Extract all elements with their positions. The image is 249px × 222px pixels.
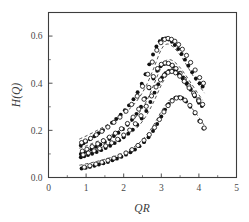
open-circle-marker: [159, 41, 163, 45]
open-circle-marker: [162, 73, 166, 77]
open-circle-marker: [154, 85, 158, 89]
x-tick-label: 5: [234, 183, 239, 193]
open-circle-marker: [94, 162, 98, 166]
open-circle-marker: [177, 42, 181, 46]
filled-circle-marker: [136, 90, 140, 94]
open-circle-marker: [112, 120, 116, 124]
open-circle-marker: [202, 126, 206, 130]
open-circle-marker: [158, 78, 162, 82]
open-circle-marker: [136, 143, 140, 147]
open-circle-marker: [139, 114, 143, 118]
open-circle-marker: [119, 127, 123, 131]
filled-circle-marker: [144, 109, 148, 113]
open-circle-marker: [107, 135, 111, 139]
open-circle-marker: [130, 148, 134, 152]
open-circle-marker: [149, 94, 153, 98]
open-circle-marker: [133, 122, 137, 126]
open-circle-marker: [110, 141, 114, 145]
open-circle-marker: [144, 104, 148, 108]
open-circle-marker: [147, 133, 151, 137]
open-circle-marker: [88, 164, 92, 168]
open-circle-marker: [201, 102, 205, 106]
open-circle-marker: [188, 103, 192, 107]
open-circle-marker: [106, 125, 110, 129]
open-circle-marker: [131, 115, 135, 119]
open-circle-marker: [92, 149, 96, 153]
open-circle-marker: [157, 117, 161, 121]
open-circle-marker: [178, 96, 182, 100]
scatter-chart-figure: 012345 0.00.20.40.6 QR H(Q): [0, 0, 249, 222]
open-circle-marker: [118, 115, 122, 119]
open-circle-marker: [166, 104, 170, 108]
open-circle-marker: [147, 85, 151, 89]
open-circle-marker: [124, 151, 128, 155]
filled-circle-marker: [183, 58, 187, 62]
open-circle-marker: [182, 79, 186, 83]
open-circle-marker: [140, 84, 144, 88]
open-circle-marker: [152, 125, 156, 129]
open-circle-marker: [193, 111, 197, 115]
open-circle-marker: [112, 156, 116, 160]
open-circle-marker: [150, 60, 154, 64]
open-circle-marker: [187, 86, 191, 90]
open-circle-marker: [83, 139, 87, 143]
filled-circle-marker: [180, 52, 184, 56]
open-circle-marker: [180, 47, 184, 51]
open-circle-marker: [201, 81, 205, 85]
open-circle-marker: [155, 67, 159, 71]
open-circle-marker: [189, 60, 193, 64]
x-tick-label: 4: [197, 183, 202, 193]
open-circle-marker: [106, 158, 110, 162]
x-axis-label: QR: [134, 202, 149, 214]
open-circle-marker: [86, 151, 90, 155]
open-circle-marker: [118, 154, 122, 158]
open-circle-marker: [122, 133, 126, 137]
open-circle-marker: [142, 138, 146, 142]
open-circle-marker: [124, 109, 128, 113]
open-circle-marker: [94, 133, 98, 137]
open-circle-marker: [178, 74, 182, 78]
y-tick-label: 0.6: [31, 31, 43, 41]
open-circle-marker: [183, 98, 187, 102]
filled-circle-marker: [153, 91, 157, 95]
x-tick-label: 0: [46, 183, 51, 193]
open-circle-marker: [116, 137, 120, 141]
open-circle-marker: [170, 63, 174, 67]
y-tick-label: 0.0: [31, 173, 43, 183]
open-circle-marker: [104, 144, 108, 148]
open-circle-marker: [96, 142, 100, 146]
open-circle-marker: [192, 93, 196, 97]
filled-circle-marker: [148, 100, 152, 104]
filled-circle-marker: [176, 47, 180, 51]
open-circle-marker: [142, 97, 146, 101]
open-circle-marker: [170, 99, 174, 103]
x-tick-label: 1: [84, 183, 89, 193]
open-circle-marker: [197, 99, 201, 103]
open-circle-marker: [162, 110, 166, 114]
open-circle-marker: [100, 160, 104, 164]
open-circle-marker: [89, 136, 93, 140]
open-circle-marker: [155, 48, 159, 52]
filled-circle-marker: [132, 97, 136, 101]
open-circle-marker: [128, 128, 132, 132]
y-axis-label: H(Q): [10, 83, 23, 108]
filled-circle-marker: [151, 53, 155, 57]
open-circle-marker: [90, 145, 94, 149]
open-circle-marker: [100, 129, 104, 133]
y-tick-label: 0.2: [31, 126, 43, 136]
open-circle-marker: [151, 75, 155, 79]
open-circle-marker: [125, 121, 129, 125]
open-circle-marker: [135, 94, 139, 98]
open-circle-marker: [198, 75, 202, 79]
open-circle-marker: [173, 71, 177, 75]
open-circle-marker: [98, 146, 102, 150]
open-circle-marker: [137, 107, 141, 111]
open-circle-marker: [146, 72, 150, 76]
open-circle-marker: [101, 139, 105, 143]
open-circle-marker: [113, 131, 117, 135]
x-tick-label: 2: [121, 183, 126, 193]
open-circle-marker: [82, 165, 86, 169]
open-circle-marker: [174, 96, 178, 100]
open-circle-marker: [130, 102, 134, 106]
x-tick-label: 3: [159, 183, 164, 193]
